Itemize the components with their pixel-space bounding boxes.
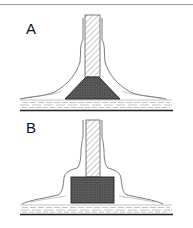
substrate-a [20,100,172,108]
panel-b [20,120,173,215]
panel-a [20,15,173,111]
panel-label-b: B [26,120,36,135]
shaft-a [85,15,100,77]
trapezoid-base-a [65,77,120,99]
shaft-b [86,120,100,177]
panel-label-a: A [26,21,36,36]
rectangle-base-b [71,177,114,203]
substrate-b [20,205,172,212]
